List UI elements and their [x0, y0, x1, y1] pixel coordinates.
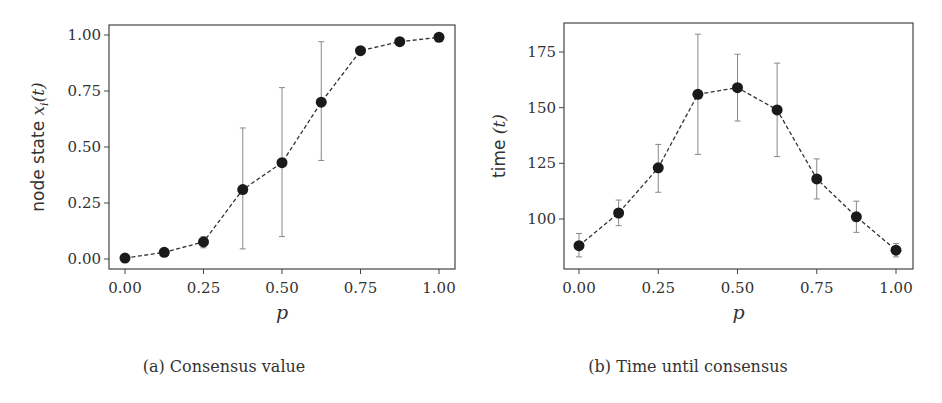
y-axis-label-text: node state [28, 115, 48, 211]
x-tick-label: 0.75 [800, 279, 833, 297]
data-point [692, 89, 703, 100]
x-tick-label: 1.00 [422, 279, 455, 297]
y-tick-label: 0.00 [68, 250, 101, 268]
data-point [355, 45, 366, 56]
data-point [434, 32, 445, 43]
data-point [394, 36, 405, 47]
data-point [851, 211, 862, 222]
data-point [120, 253, 131, 264]
y-tick-label: 0.75 [68, 82, 101, 100]
y-axis-label-math: x [28, 105, 48, 115]
data-point [277, 157, 288, 168]
data-point [574, 240, 585, 251]
x-tick-label: 0.25 [642, 279, 675, 297]
data-point [891, 245, 902, 256]
y-tick-label: 150 [527, 99, 556, 117]
data-point [653, 162, 664, 173]
x-axis-label: p [732, 301, 744, 323]
y-tick-label: 0.25 [68, 194, 101, 212]
y-tick-label: 0.50 [68, 138, 101, 156]
data-point [811, 173, 822, 184]
data-point [613, 207, 624, 218]
data-point [237, 184, 248, 195]
x-tick-label: 0.00 [108, 279, 141, 297]
data-point [316, 97, 327, 108]
y-tick-label: 175 [527, 43, 556, 61]
y-axis-label-tail: (t) [489, 114, 509, 134]
y-axis-label-tail: (t) [28, 82, 48, 102]
x-tick-label: 0.25 [187, 279, 220, 297]
chart-time-until-consensus: 0.000.250.500.751.00100125150175ptime (t… [489, 23, 913, 376]
y-axis-label: time (t) [489, 114, 509, 178]
x-tick-label: 0.50 [721, 279, 754, 297]
y-axis-label-text: time [489, 134, 509, 178]
x-tick-label: 1.00 [879, 279, 912, 297]
x-tick-label: 0.00 [562, 279, 595, 297]
y-tick-label: 1.00 [68, 26, 101, 44]
data-point [732, 82, 743, 93]
data-point [772, 104, 783, 115]
chart-consensus-value: 0.000.250.500.751.000.000.250.500.751.00… [28, 25, 456, 376]
x-tick-label: 0.75 [344, 279, 377, 297]
plot-frame [564, 23, 913, 269]
figure: 0.000.250.500.751.000.000.250.500.751.00… [0, 0, 942, 403]
x-axis-label: p [276, 301, 288, 323]
data-point [159, 247, 170, 258]
y-axis-label: node state xi(t) [28, 82, 51, 212]
y-tick-label: 125 [527, 154, 556, 172]
figure-caption: (a) Consensus value [143, 357, 306, 376]
figure-caption: (b) Time until consensus [588, 357, 787, 376]
y-tick-label: 100 [527, 210, 556, 228]
x-tick-label: 0.50 [265, 279, 298, 297]
data-point [198, 236, 209, 247]
